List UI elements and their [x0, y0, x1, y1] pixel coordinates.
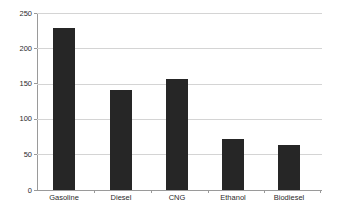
- x-axis-tick-mark: [264, 190, 265, 193]
- bar-gasoline: [53, 28, 75, 190]
- x-tick-label-diesel: Diesel: [111, 194, 132, 202]
- x-axis-tick-mark: [94, 190, 95, 193]
- y-tick-label: 150: [0, 80, 32, 88]
- x-axis-tick-mark: [208, 190, 209, 193]
- bar-ethanol: [222, 139, 244, 190]
- y-tick-label: 250: [0, 10, 32, 18]
- y-tick-label: 0: [0, 187, 32, 195]
- x-tick-label-gasoline: Gasoline: [49, 194, 79, 202]
- x-axis-tick-mark: [320, 190, 321, 193]
- bar-chart: 250 200 150 100 50 0 Gasoline Diesel CNG: [0, 0, 339, 219]
- bar-biodiesel: [278, 145, 300, 190]
- y-axis-tick-labels: 250 200 150 100 50 0: [0, 0, 32, 219]
- x-axis-tick-mark: [151, 190, 152, 193]
- y-tick-label: 200: [0, 45, 32, 53]
- gridline-200: [37, 48, 322, 49]
- gridline-250: [37, 13, 322, 14]
- x-axis-line: [37, 190, 322, 191]
- x-axis-tick-labels: Gasoline Diesel CNG Ethanol Biodiesel: [37, 194, 322, 208]
- y-tick-label: 50: [0, 151, 32, 159]
- x-tick-label-cng: CNG: [169, 194, 186, 202]
- x-tick-label-ethanol: Ethanol: [220, 194, 245, 202]
- x-tick-label-biodiesel: Biodiesel: [274, 194, 304, 202]
- bar-cng: [166, 79, 188, 190]
- y-tick-label: 100: [0, 115, 32, 123]
- plot-area: [37, 13, 322, 190]
- bar-diesel: [110, 90, 132, 190]
